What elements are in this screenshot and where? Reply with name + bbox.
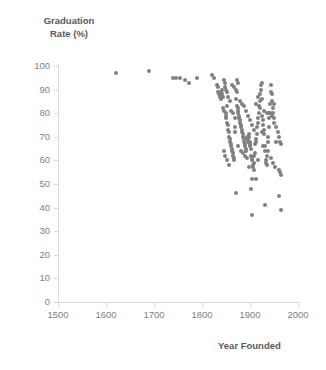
data-point bbox=[252, 128, 256, 132]
x-tick-mark bbox=[202, 303, 203, 307]
y-tick-label: 100 bbox=[20, 60, 50, 71]
data-point bbox=[226, 123, 230, 127]
data-point bbox=[260, 97, 264, 101]
data-point bbox=[221, 95, 225, 99]
data-point bbox=[270, 92, 274, 96]
y-tick-label: 60 bbox=[20, 154, 50, 165]
data-point bbox=[225, 90, 229, 94]
data-point bbox=[232, 85, 236, 89]
y-axis-title: Graduation Rate (%) bbox=[14, 14, 124, 40]
x-tick-label: 1900 bbox=[230, 309, 270, 320]
y-tick-label: 10 bbox=[20, 272, 50, 283]
x-tick-mark bbox=[298, 303, 299, 307]
x-tick-label: 1600 bbox=[86, 309, 126, 320]
data-point bbox=[223, 81, 227, 85]
data-point bbox=[269, 83, 273, 87]
plot-area bbox=[58, 66, 298, 302]
data-point bbox=[147, 69, 151, 73]
x-tick-mark bbox=[58, 303, 59, 307]
y-tick-label: 30 bbox=[20, 225, 50, 236]
data-point bbox=[274, 140, 278, 144]
data-point bbox=[272, 102, 276, 106]
data-point bbox=[254, 102, 258, 106]
y-tick-label: 50 bbox=[20, 178, 50, 189]
x-axis-title: Year Founded bbox=[218, 340, 281, 351]
x-tick-label: 1800 bbox=[182, 309, 222, 320]
data-point bbox=[235, 90, 239, 94]
data-point bbox=[277, 135, 281, 139]
data-point bbox=[223, 154, 227, 158]
y-tick-label: 80 bbox=[20, 107, 50, 118]
data-point bbox=[276, 130, 280, 134]
data-point bbox=[233, 116, 237, 120]
data-point bbox=[271, 161, 275, 165]
data-point bbox=[249, 187, 253, 191]
data-point bbox=[195, 76, 199, 80]
y-tick-label: 70 bbox=[20, 131, 50, 142]
data-point bbox=[272, 121, 276, 125]
x-tick-mark bbox=[154, 303, 155, 307]
data-point bbox=[227, 130, 231, 134]
data-point bbox=[231, 111, 235, 115]
data-point bbox=[246, 114, 250, 118]
x-tick-mark bbox=[250, 303, 251, 307]
data-point bbox=[249, 147, 253, 151]
y-tick-label: 0 bbox=[20, 296, 50, 307]
data-point bbox=[252, 168, 256, 172]
data-point bbox=[279, 173, 283, 177]
x-axis-line bbox=[58, 302, 299, 303]
data-point bbox=[266, 140, 270, 144]
y-tick-label: 20 bbox=[20, 249, 50, 260]
data-point bbox=[187, 81, 191, 85]
data-point bbox=[265, 163, 269, 167]
data-point bbox=[252, 154, 256, 158]
x-tick-label: 1700 bbox=[134, 309, 174, 320]
data-point bbox=[227, 163, 231, 167]
scatter-chart: Graduation Rate (%) 01020304050607080901… bbox=[0, 0, 326, 370]
data-point bbox=[256, 121, 260, 125]
data-point bbox=[260, 130, 264, 134]
data-point bbox=[270, 114, 274, 118]
x-tick-mark bbox=[106, 303, 107, 307]
data-point bbox=[250, 123, 254, 127]
data-point bbox=[114, 71, 118, 75]
data-point bbox=[256, 95, 260, 99]
data-point bbox=[260, 81, 264, 85]
x-tick-label: 2000 bbox=[278, 309, 318, 320]
data-point bbox=[234, 97, 238, 101]
y-tick-label: 40 bbox=[20, 202, 50, 213]
data-point bbox=[222, 149, 226, 153]
data-point bbox=[233, 130, 237, 134]
data-point bbox=[244, 109, 248, 113]
data-point bbox=[277, 194, 281, 198]
x-tick-label: 1500 bbox=[38, 309, 78, 320]
data-point bbox=[259, 88, 263, 92]
y-tick-label: 90 bbox=[20, 84, 50, 95]
